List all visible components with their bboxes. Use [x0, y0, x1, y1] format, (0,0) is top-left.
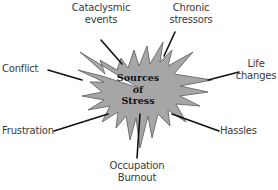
center-label: Sources of Stress — [100, 72, 176, 107]
node-conflict: Conflict — [2, 63, 48, 75]
node-label-line: Chronic — [158, 2, 224, 14]
center-label-line-1: Sources — [100, 72, 176, 84]
center-label-line-2: of — [100, 84, 176, 96]
node-label-line: Frustration — [2, 125, 56, 137]
center-label-line-3: Stress — [100, 95, 176, 107]
node-label-line: Cataclysmic — [64, 2, 138, 14]
node-hassles: Hassles — [220, 125, 270, 137]
node-label-line: Burnout — [100, 172, 174, 184]
node-label-line: Conflict — [2, 63, 48, 75]
node-label-line: Occupation — [100, 160, 174, 172]
node-cataclysmic-events: Cataclysmic events — [64, 2, 138, 26]
node-label-line: changes — [234, 70, 278, 82]
stress-sources-diagram: Sources of Stress Cataclysmic events Chr… — [0, 0, 278, 190]
node-frustration: Frustration — [2, 125, 56, 137]
node-life-changes: Life changes — [234, 58, 278, 82]
connector-conflict — [48, 70, 82, 80]
node-label-line: Life — [234, 58, 278, 70]
node-chronic-stressors: Chronic stressors — [158, 2, 224, 26]
node-occupation-burnout: Occupation Burnout — [100, 160, 174, 184]
connector-hassles — [172, 114, 219, 131]
node-label-line: events — [64, 14, 138, 26]
node-label-line: Hassles — [220, 125, 270, 137]
connector-frustration — [54, 114, 108, 131]
connector-cataclysmic — [101, 40, 122, 64]
node-label-line: stressors — [158, 14, 224, 26]
